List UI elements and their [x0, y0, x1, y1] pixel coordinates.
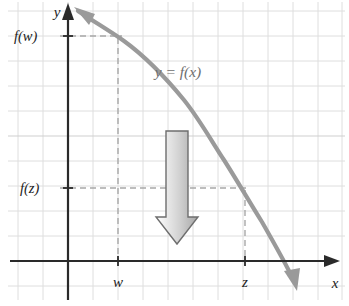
function-graph: y x f(w) f(z) w z y = f(x)	[0, 0, 349, 306]
y-axis-label: y	[52, 4, 61, 20]
y-tick-label-fz: f(z)	[20, 180, 40, 197]
y-tick-label-fw: f(w)	[14, 28, 38, 45]
curve-equation-label: y = f(x)	[153, 63, 202, 81]
x-tick-label-z: z	[241, 274, 248, 290]
x-tick-label-w: w	[113, 274, 123, 290]
x-axis-label: x	[331, 275, 339, 291]
figure-container: y x f(w) f(z) w z y = f(x)	[0, 0, 349, 306]
